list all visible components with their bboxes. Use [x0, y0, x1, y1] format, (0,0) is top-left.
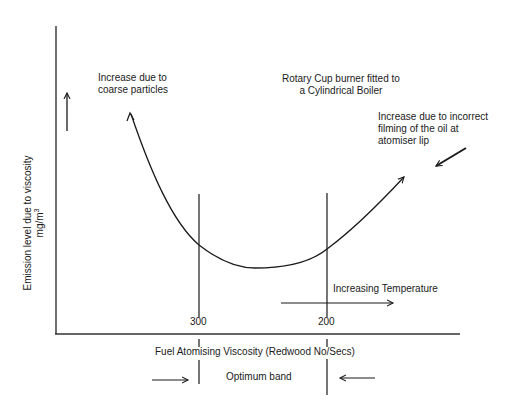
title-line: a Cylindrical Boiler [282, 85, 400, 97]
x-tick-300: 300 [190, 316, 207, 328]
annotation-incorrect-filming: Increase due to incorrect filming of the… [378, 111, 488, 147]
y-axis-unit: mg/m3 [34, 138, 46, 308]
y-axis-label: Emission level due to viscosity mg/m3 [22, 138, 46, 308]
title-line: Rotary Cup burner fitted to [282, 73, 400, 85]
pointer-arrow-icon [436, 148, 466, 166]
annotation-coarse-particles: Increase due to coarse particles [98, 72, 168, 96]
annotation-line: atomiser lip [378, 135, 488, 147]
optimum-band-label: Optimum band [226, 371, 292, 383]
annotation-line: coarse particles [98, 84, 168, 96]
annotation-line: filming of the oil at [378, 123, 488, 135]
x-axis-label: Fuel Atomising Viscosity (Redwood No/Sec… [155, 346, 355, 358]
y-axis-unit-base: mg/m [34, 212, 45, 237]
x-tick-200: 200 [318, 316, 335, 328]
emission-curve [131, 114, 404, 268]
chart-title: Rotary Cup burner fitted to a Cylindrica… [282, 73, 400, 97]
annotation-line: Increase due to [98, 72, 168, 84]
y-axis-label-line1: Emission level due to viscosity [22, 138, 34, 308]
annotation-line: Increase due to incorrect [378, 111, 488, 123]
annotation-increasing-temperature: Increasing Temperature [333, 283, 438, 295]
y-axis-unit-sup: 3 [33, 209, 40, 213]
